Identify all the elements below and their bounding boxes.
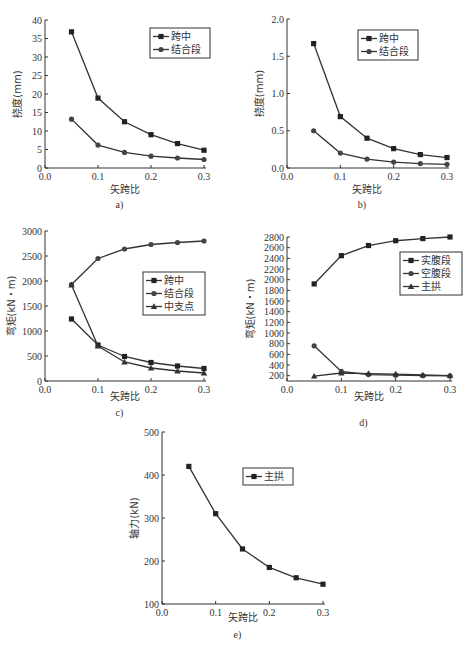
x-axis-title: 矢跨比	[228, 611, 258, 623]
y-tick-label: 2000	[22, 276, 42, 287]
legend: 跨中结合段中支点	[143, 272, 205, 315]
data-point-square-marker	[320, 582, 325, 587]
y-tick-label: 500	[27, 351, 42, 362]
data-point-circle-marker	[312, 343, 317, 348]
data-point-square-marker	[95, 95, 100, 100]
chart-a: 05101520253035400.00.10.20.3矢跨比挠度(mm)a)跨…	[11, 15, 210, 212]
x-axis-title: 矢跨比	[352, 183, 382, 195]
y-tick-label: 800	[269, 338, 284, 349]
y-tick-label: 1.5	[272, 51, 285, 62]
series-line	[72, 119, 205, 159]
y-tick-label: 2800	[264, 232, 284, 243]
data-point-square-marker	[364, 136, 369, 141]
y-tick-label: 35	[32, 33, 42, 44]
series-1	[69, 117, 207, 163]
data-point-square-marker	[447, 234, 452, 239]
x-tick-label: 0.3	[444, 384, 457, 395]
data-point-circle-marker	[311, 128, 316, 133]
y-tick-label: 1200	[264, 317, 284, 328]
x-tick-label: 0.1	[335, 384, 348, 395]
y-tick-label: 25	[32, 70, 42, 81]
y-axis-title: 弯矩(kN・m)	[244, 279, 256, 340]
data-point-square-marker	[393, 238, 398, 243]
data-point-square-marker	[148, 360, 153, 365]
series-line	[314, 131, 447, 165]
chart-d: 2004006008001000120014001600180020002200…	[244, 232, 462, 430]
data-point-circle-marker	[175, 240, 180, 245]
data-point-square-marker	[201, 148, 206, 153]
series-line	[314, 346, 450, 376]
series-0	[69, 316, 207, 371]
data-point-circle-marker	[364, 156, 369, 161]
legend-label: 结合段	[164, 287, 194, 299]
data-point-circle-marker	[444, 162, 449, 167]
legend-circle-marker	[408, 271, 413, 276]
data-point-circle-marker	[201, 157, 206, 162]
y-tick-label: 1000	[264, 328, 284, 339]
data-point-square-marker	[444, 155, 449, 160]
x-tick-label: 0.2	[389, 384, 402, 395]
x-tick-label: 0.3	[441, 171, 454, 182]
y-tick-label: 2200	[264, 264, 284, 275]
x-tick-label: 0.3	[317, 607, 330, 618]
legend-circle-marker	[151, 291, 156, 296]
x-tick-label: 0.1	[92, 384, 105, 395]
data-point-square-marker	[148, 132, 153, 137]
series-1	[311, 128, 450, 167]
data-point-square-marker	[69, 316, 74, 321]
y-tick-label: 200	[269, 370, 284, 381]
data-point-square-marker	[391, 146, 396, 151]
y-tick-label: 40	[32, 15, 42, 26]
data-point-circle-marker	[69, 117, 74, 122]
x-axis-title: 矢跨比	[110, 390, 140, 402]
x-tick-label: 0.0	[39, 384, 52, 395]
x-tick-label: 0.0	[156, 607, 169, 618]
x-tick-label: 0.1	[92, 171, 105, 182]
y-tick-label: 2.0	[272, 14, 285, 25]
data-point-square-marker	[418, 152, 423, 157]
data-point-circle-marker	[201, 238, 206, 243]
y-tick-label: 20	[32, 89, 42, 100]
data-point-circle-marker	[148, 242, 153, 247]
y-tick-label: 500	[144, 427, 159, 438]
y-tick-label: 400	[144, 470, 159, 481]
y-tick-label: 1.0	[272, 88, 285, 99]
y-tick-label: 1000	[22, 326, 42, 337]
subfigure-caption: d)	[359, 417, 367, 429]
legend-square-marker	[366, 36, 371, 41]
y-tick-label: 1800	[264, 285, 284, 296]
data-point-circle-marker	[95, 142, 100, 147]
data-point-square-marker	[213, 511, 218, 516]
legend-label: 主拱	[421, 280, 441, 292]
data-point-square-marker	[366, 243, 371, 248]
y-tick-label: 2500	[22, 251, 42, 262]
data-point-circle-marker	[391, 159, 396, 164]
data-point-circle-marker	[122, 246, 127, 251]
y-tick-label: 15	[32, 107, 42, 118]
subfigure-caption: b)	[358, 199, 366, 211]
x-tick-label: 0.2	[145, 384, 158, 395]
legend-label: 跨中	[171, 30, 191, 42]
series-2	[311, 370, 453, 379]
y-tick-label: 1500	[22, 301, 42, 312]
y-tick-label: 10	[32, 126, 42, 137]
y-tick-label: 1600	[264, 296, 284, 307]
legend-label: 跨中	[379, 32, 399, 44]
x-tick-label: 0.0	[39, 171, 52, 182]
subfigure-caption: a)	[116, 199, 124, 211]
x-axis-title: 矢跨比	[354, 390, 384, 402]
x-axis-title: 矢跨比	[110, 183, 140, 195]
x-tick-label: 0.1	[334, 171, 347, 182]
legend-label: 实腹段	[421, 254, 451, 266]
x-tick-label: 0.3	[198, 171, 211, 182]
y-axis-title: 挠度(mm)	[11, 70, 23, 117]
series-line	[72, 319, 205, 369]
legend-square-marker	[408, 258, 413, 263]
legend: 跨中结合段	[150, 28, 210, 58]
legend-square-marker	[158, 34, 163, 39]
legend: 主拱	[243, 468, 293, 485]
data-point-circle-marker	[338, 151, 343, 156]
y-tick-label: 2400	[264, 253, 284, 264]
y-axis-title: 弯矩(kN・m)	[5, 276, 17, 337]
y-tick-label: 600	[269, 349, 284, 360]
